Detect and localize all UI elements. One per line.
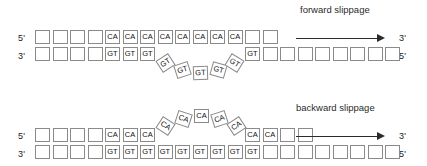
backward-bottom-empty-cell [88, 145, 103, 159]
backward-top-cell: CA [105, 128, 120, 142]
forward-top-cell: CA [193, 30, 208, 44]
backward-bottom-cell: GT [245, 145, 260, 159]
forward-top-empty-cell [35, 30, 50, 44]
forward-bottom-empty-cell [350, 47, 365, 61]
forward-top-empty-cell [263, 30, 278, 44]
backward-top-loop-cell: CA [194, 109, 209, 123]
backward-bottom-cell: GT [175, 145, 190, 159]
forward-bottom-loop-cell: GT [173, 61, 192, 79]
backward-slippage-panel: backward slippage 5' 3' 3' 5' CACACA CAC… [0, 83, 427, 166]
forward-top-empty-cell [245, 30, 260, 44]
forward-bottom-cell: GT [105, 47, 120, 61]
forward-top-cell: CA [105, 30, 120, 44]
backward-top-loop-cell: CA [174, 110, 193, 128]
forward-slippage-arrow [296, 34, 386, 44]
forward-bottom-empty-cell [298, 47, 313, 61]
forward-bottom-cell: GT [123, 47, 138, 61]
slippage-figure: forward slippage 5' 3' 3' 5' CACACACACAC… [0, 0, 427, 166]
backward-top-loop-cell: CA [226, 116, 246, 136]
arrow-shaft [296, 136, 378, 137]
backward-bottom-cell: GT [140, 145, 155, 159]
backward-top-right-end-label: 3' [399, 131, 406, 141]
forward-slippage-caption: forward slippage [300, 4, 370, 15]
forward-bottom-left-end-label: 3' [18, 51, 25, 61]
backward-bottom-cell: GT [210, 145, 225, 159]
forward-bottom-empty-cell [70, 47, 85, 61]
forward-top-right-end-label: 3' [399, 33, 406, 43]
backward-top-empty-cell [280, 128, 295, 142]
backward-slippage-caption: backward slippage [296, 102, 375, 113]
backward-top-left-end-label: 5' [18, 131, 25, 141]
forward-bottom-loop-cell: GT [224, 53, 244, 73]
forward-bottom-empty-cell [333, 47, 348, 61]
arrow-head-icon [377, 34, 385, 42]
forward-bottom-empty-cell [280, 47, 295, 61]
forward-top-cell: CA [210, 30, 225, 44]
backward-bottom-cell: GT [158, 145, 173, 159]
forward-top-cell: CA [123, 30, 138, 44]
forward-bottom-right-end-label: 5' [399, 51, 406, 61]
backward-top-cell: CA [263, 128, 278, 142]
backward-top-empty-cell [53, 128, 68, 142]
forward-bottom-cell: GT [140, 47, 155, 61]
forward-bottom-empty-cell [368, 47, 383, 61]
forward-bottom-empty-cell [263, 47, 278, 61]
backward-bottom-empty-cell [53, 145, 68, 159]
backward-top-empty-cell [70, 128, 85, 142]
backward-top-cell: CA [123, 128, 138, 142]
forward-top-cell: CA [158, 30, 173, 44]
forward-bottom-empty-cell [35, 47, 50, 61]
backward-bottom-empty-cell [315, 145, 330, 159]
forward-slippage-panel: forward slippage 5' 3' 3' 5' CACACACACAC… [0, 0, 427, 83]
backward-bottom-empty-cell [35, 145, 50, 159]
backward-bottom-empty-cell [70, 145, 85, 159]
forward-top-cell: CA [228, 30, 243, 44]
backward-bottom-empty-cell [368, 145, 383, 159]
backward-top-empty-cell [35, 128, 50, 142]
backward-top-cell: CA [140, 128, 155, 142]
forward-top-empty-cell [88, 30, 103, 44]
backward-bottom-empty-cell [298, 145, 313, 159]
backward-bottom-cell: GT [123, 145, 138, 159]
backward-bottom-cell: GT [228, 145, 243, 159]
backward-bottom-empty-cell [350, 145, 365, 159]
forward-bottom-loop-cell: GT [155, 53, 175, 73]
backward-top-empty-cell [88, 128, 103, 142]
forward-bottom-empty-cell [315, 47, 330, 61]
forward-top-empty-cell [53, 30, 68, 44]
forward-top-cell: CA [175, 30, 190, 44]
forward-top-left-end-label: 5' [18, 33, 25, 43]
backward-top-loop-cell: CA [210, 110, 229, 128]
arrow-head-icon [377, 132, 385, 140]
forward-top-empty-cell [70, 30, 85, 44]
arrow-shaft [296, 38, 378, 39]
backward-bottom-right-end-label: 5' [399, 149, 406, 159]
forward-bottom-empty-cell [53, 47, 68, 61]
backward-bottom-empty-cell [263, 145, 278, 159]
forward-bottom-empty-cell [385, 47, 400, 61]
backward-bottom-cell: GT [193, 145, 208, 159]
forward-bottom-loop-cell: GT [193, 66, 208, 81]
forward-bottom-empty-cell [88, 47, 103, 61]
backward-top-loop-cell: CA [155, 116, 175, 136]
backward-bottom-left-end-label: 3' [18, 149, 25, 159]
backward-bottom-empty-cell [280, 145, 295, 159]
forward-bottom-cell: GT [245, 47, 260, 61]
backward-top-cell: CA [245, 128, 260, 142]
backward-bottom-empty-cell [333, 145, 348, 159]
forward-top-cell: CA [140, 30, 155, 44]
backward-slippage-arrow [296, 132, 386, 142]
backward-bottom-empty-cell [385, 145, 400, 159]
backward-bottom-cell: GT [105, 145, 120, 159]
